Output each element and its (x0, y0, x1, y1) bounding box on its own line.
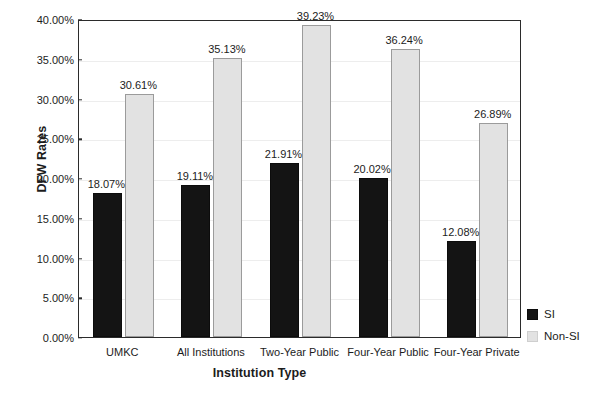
bar-value-label: 39.23% (297, 10, 334, 22)
bar-non-si (213, 58, 242, 337)
gridline (79, 61, 520, 62)
x-axis-title: Institution Type (0, 366, 597, 380)
x-axis-category-label: Two-Year Public (260, 346, 339, 358)
y-axis-tick-mark (78, 337, 82, 338)
bar-value-label: 12.08% (442, 226, 479, 238)
y-axis-tick-label: 25.00% (12, 133, 74, 145)
bar-value-label: 21.91% (265, 148, 302, 160)
legend-label: SI (544, 308, 555, 320)
y-axis-tick-mark (78, 218, 82, 219)
bar-si (447, 241, 476, 337)
x-axis-category-label: Four-Year Private (434, 346, 520, 358)
y-axis-tick-labels: 0.00%5.00%10.00%15.00%20.00%25.00%30.00%… (8, 20, 74, 338)
y-axis-tick-mark (78, 258, 82, 259)
bar-value-label: 36.24% (385, 34, 422, 46)
bar-non-si (125, 94, 154, 337)
bar-si (181, 185, 210, 337)
bar-non-si (479, 123, 508, 337)
legend-swatch-icon (527, 309, 538, 320)
y-axis-tick-label: 20.00% (12, 173, 74, 185)
legend-label: Non-SI (544, 330, 580, 342)
x-axis-category-label: Four-Year Public (347, 346, 429, 358)
legend-item-si[interactable]: SI (527, 303, 597, 325)
y-axis-tick-label: 30.00% (12, 94, 74, 106)
y-axis-tick-mark (78, 178, 82, 179)
bar-value-label: 35.13% (208, 43, 245, 55)
y-axis-tick-mark (78, 139, 82, 140)
bar-si (359, 178, 388, 337)
bar-chart: DFW Rates 0.00%5.00%10.00%15.00%20.00%25… (0, 0, 597, 393)
bar-si (93, 193, 122, 337)
y-axis-tick-label: 35.00% (12, 54, 74, 66)
legend-item-non-si[interactable]: Non-SI (527, 325, 597, 347)
y-axis-tick-label: 0.00% (12, 332, 74, 344)
legend-swatch-icon (527, 331, 538, 342)
bar-value-label: 30.61% (120, 79, 157, 91)
x-axis-title-text: Institution Type (213, 366, 307, 380)
y-axis-tick-label: 40.00% (12, 14, 74, 26)
y-axis-tick-mark (78, 99, 82, 100)
plot-area (78, 20, 521, 338)
bar-value-label: 19.11% (177, 170, 214, 182)
bar-value-label: 26.89% (474, 108, 511, 120)
bar-non-si (302, 25, 331, 337)
bar-si (270, 163, 299, 337)
y-axis-tick-mark (78, 19, 82, 20)
bar-value-label: 20.02% (353, 163, 390, 175)
x-axis-category-label: UMKC (106, 346, 138, 358)
bar-value-label: 18.07% (88, 178, 125, 190)
chart-legend: SINon-SI (527, 303, 597, 347)
x-axis-category-label: All Institutions (177, 346, 245, 358)
y-axis-tick-mark (78, 59, 82, 60)
bar-non-si (391, 49, 420, 337)
y-axis-tick-mark (78, 298, 82, 299)
y-axis-tick-label: 5.00% (12, 292, 74, 304)
y-axis-tick-label: 15.00% (12, 213, 74, 225)
y-axis-tick-label: 10.00% (12, 253, 74, 265)
